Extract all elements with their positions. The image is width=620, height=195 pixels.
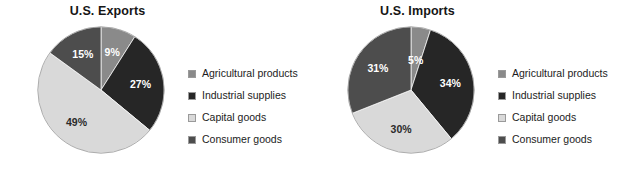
legend-item[interactable]: Capital goods <box>188 107 308 128</box>
legend-item[interactable]: Industrial supplies <box>188 85 308 106</box>
legend-item[interactable]: Agricultural products <box>188 63 308 84</box>
legend-item-label: Industrial supplies <box>202 90 286 101</box>
exports-pie-slices <box>38 27 164 153</box>
imports-pie-chart: 5%34%30%31% <box>347 26 475 154</box>
legend-item-label: Agricultural products <box>512 68 608 79</box>
legend-swatch-icon <box>498 136 506 144</box>
exports-pie-chart: 9%27%49%15% <box>37 26 165 154</box>
legend-swatch-icon <box>188 92 196 100</box>
legend-item[interactable]: Industrial supplies <box>498 85 618 106</box>
legend-item[interactable]: Agricultural products <box>498 63 618 84</box>
legend-item-label: Agricultural products <box>202 68 298 79</box>
legend-item-label: Consumer goods <box>202 134 282 145</box>
legend-swatch-icon <box>188 114 196 122</box>
imports-chart-panel: U.S. Imports 5%34%30%31% Agricultural pr… <box>310 0 620 195</box>
legend-swatch-icon <box>188 70 196 78</box>
exports-chart-title: U.S. Exports <box>0 4 215 18</box>
legend-item-label: Capital goods <box>202 112 266 123</box>
exports-pie-svg <box>37 26 165 154</box>
exports-chart-panel: U.S. Exports 9%27%49%15% Agricultural pr… <box>0 0 310 195</box>
imports-pie-slices <box>348 27 474 153</box>
imports-legend: Agricultural productsIndustrial supplies… <box>498 63 618 151</box>
legend-item[interactable]: Capital goods <box>498 107 618 128</box>
legend-swatch-icon <box>498 92 506 100</box>
legend-item[interactable]: Consumer goods <box>188 129 308 150</box>
legend-item-label: Consumer goods <box>512 134 592 145</box>
legend-swatch-icon <box>188 136 196 144</box>
legend-swatch-icon <box>498 70 506 78</box>
legend-item-label: Industrial supplies <box>512 90 596 101</box>
imports-pie-svg <box>347 26 475 154</box>
imports-chart-title: U.S. Imports <box>310 4 525 18</box>
legend-item[interactable]: Consumer goods <box>498 129 618 150</box>
exports-legend: Agricultural productsIndustrial supplies… <box>188 63 308 151</box>
legend-item-label: Capital goods <box>512 112 576 123</box>
legend-swatch-icon <box>498 114 506 122</box>
